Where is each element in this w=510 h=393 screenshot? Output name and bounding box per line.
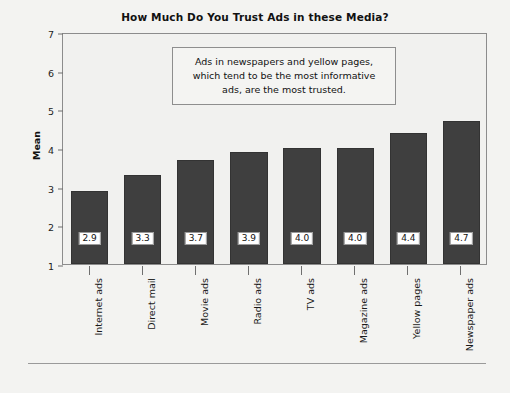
annotation-line: Ads in newspapers and yellow pages,	[181, 55, 387, 69]
bar-value-label: 2.9	[78, 232, 100, 245]
y-axis-tick-label: 7	[48, 29, 58, 40]
bar-value-label: 3.3	[132, 232, 154, 245]
x-axis-category-label: Internet ads	[93, 278, 104, 336]
x-axis-category-label: Direct mail	[146, 278, 157, 330]
bar-value-label: 4.0	[344, 232, 366, 245]
y-axis-tick-label: 5	[48, 106, 58, 117]
bar-slot: 4.7	[443, 32, 480, 264]
x-axis-tick-mark	[248, 266, 249, 275]
y-axis-tick-label: 4	[48, 145, 58, 156]
annotation-line: ads, are the most trusted.	[181, 83, 387, 97]
bar[interactable]: 4.0	[283, 148, 320, 264]
bar-slot: 2.9	[71, 32, 108, 264]
x-axis-tick-mark	[407, 266, 408, 275]
y-axis-tick: 5	[48, 106, 63, 117]
x-axis-tick-mark	[89, 266, 90, 275]
y-axis-tick-label: 2	[48, 222, 58, 233]
bar-slot: 3.3	[124, 32, 161, 264]
bar-value-label: 4.0	[291, 232, 313, 245]
y-axis-tick: 2	[48, 222, 63, 233]
x-axis-tick-mark	[142, 266, 143, 275]
x-axis-tick-mark	[195, 266, 196, 275]
y-axis-tick-label: 1	[48, 261, 58, 272]
y-axis-tick: 1	[48, 261, 63, 272]
chart-figure: How Much Do You Trust Ads in these Media…	[0, 0, 510, 393]
x-axis-category-label: Newspaper ads	[464, 278, 475, 351]
bar[interactable]: 4.7	[443, 121, 480, 264]
bar-value-label: 3.9	[238, 232, 260, 245]
bar[interactable]: 3.7	[177, 160, 214, 264]
x-axis-category-label: Movie ads	[199, 278, 210, 326]
x-axis-tick-mark	[460, 266, 461, 275]
x-axis-category-label: Radio ads	[252, 278, 263, 325]
bar[interactable]: 3.3	[124, 175, 161, 264]
annotation-line: which tend to be the most informative	[181, 69, 387, 83]
x-axis-tick-mark	[354, 266, 355, 275]
x-axis-category-label: Yellow pages	[411, 278, 422, 339]
bar[interactable]: 3.9	[230, 152, 267, 264]
y-axis-tick: 7	[48, 29, 63, 40]
y-axis-tick-label: 6	[48, 67, 58, 78]
x-axis-tick-mark	[301, 266, 302, 275]
bar-value-label: 4.7	[450, 232, 472, 245]
x-axis-category-label: Magazine ads	[358, 278, 369, 343]
bar-value-label: 4.4	[397, 232, 419, 245]
bar[interactable]: 2.9	[71, 191, 108, 264]
y-axis-tick: 3	[48, 183, 63, 194]
bar[interactable]: 4.0	[337, 148, 374, 264]
y-axis-label: Mean	[31, 128, 42, 164]
chart-title: How Much Do You Trust Ads in these Media…	[0, 11, 510, 23]
footer-rule	[28, 363, 486, 364]
bar-value-label: 3.7	[185, 232, 207, 245]
annotation-callout: Ads in newspapers and yellow pages,which…	[172, 47, 396, 105]
y-axis-tick-label: 3	[48, 183, 58, 194]
y-axis-tick-mark	[58, 266, 63, 267]
y-axis-tick: 6	[48, 67, 63, 78]
y-axis-tick: 4	[48, 145, 63, 156]
bar[interactable]: 4.4	[390, 133, 427, 264]
x-axis-category-label: TV ads	[305, 278, 316, 310]
